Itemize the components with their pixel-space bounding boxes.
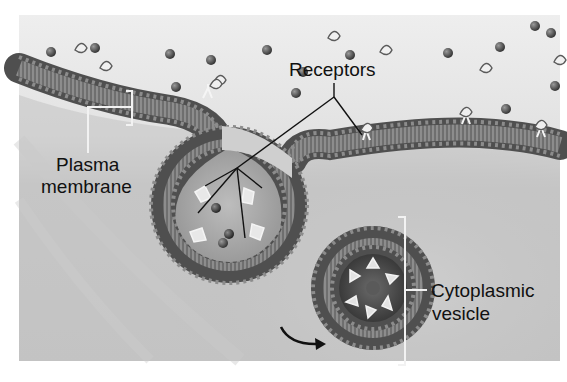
membrane-invagination	[151, 126, 307, 283]
cytoplasmic-vesicle	[311, 226, 435, 350]
vesicle-label-line2: vesicle	[432, 303, 490, 324]
plasma-membrane-label-line2: membrane	[41, 176, 132, 197]
vesicle-label-line1: Cytoplasmic	[431, 280, 534, 301]
plasma-membrane-label-line1: Plasma	[56, 154, 120, 175]
endocytosis-diagram: Receptors Plasma membrane Cytoplasmic ve…	[0, 0, 567, 382]
receptors-label: Receptors	[289, 59, 376, 80]
